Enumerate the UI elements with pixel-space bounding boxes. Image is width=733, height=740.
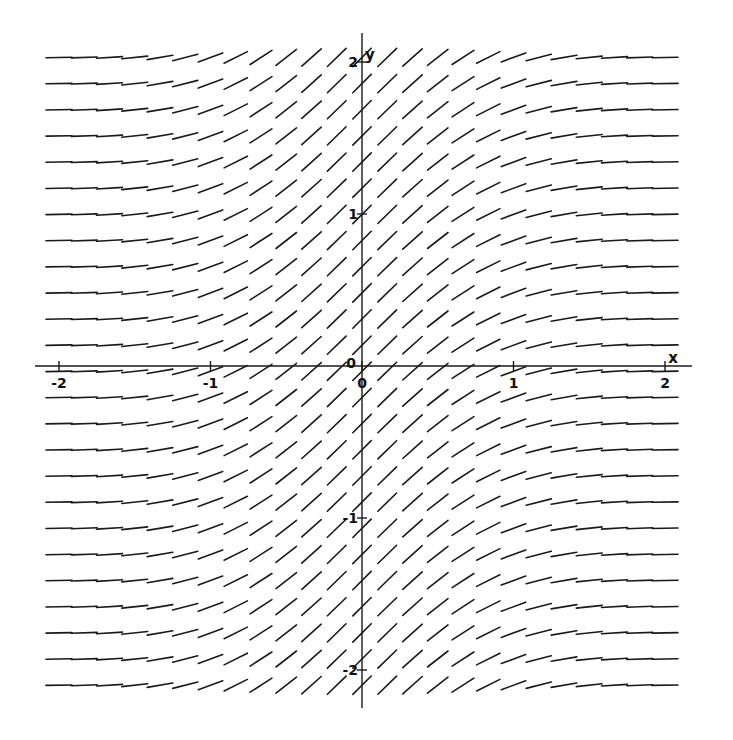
slope-segment xyxy=(173,656,198,663)
slope-segment xyxy=(173,237,198,244)
slope-segment xyxy=(276,102,297,118)
slope-segment xyxy=(224,392,247,404)
slope-segment xyxy=(224,575,247,587)
slope-segment xyxy=(501,655,525,664)
slope-segment xyxy=(302,258,321,275)
slope-segment xyxy=(198,105,222,114)
slope-segment xyxy=(551,160,577,164)
slope-segment xyxy=(501,105,525,114)
slope-segment xyxy=(173,264,198,270)
slope-segment xyxy=(551,55,577,59)
slope-segment xyxy=(147,212,173,216)
slope-segment xyxy=(198,681,222,690)
slope-segment xyxy=(452,286,474,300)
slope-segment xyxy=(276,311,297,327)
slope-segment xyxy=(477,549,500,561)
slope-segment xyxy=(198,262,222,271)
slope-segment xyxy=(198,131,222,140)
slope-segment xyxy=(173,342,198,349)
slope-segment xyxy=(403,650,422,667)
slope-segment xyxy=(302,520,321,537)
slope-segment xyxy=(71,580,97,581)
slope-segment xyxy=(97,580,123,582)
slope-segment xyxy=(250,338,272,352)
slope-segment xyxy=(652,162,678,163)
slope-segment xyxy=(652,214,678,215)
x-tick-label: -1 xyxy=(203,375,219,391)
slope-segment xyxy=(97,266,123,268)
slope-segment xyxy=(576,239,602,242)
slope-segment xyxy=(477,78,500,90)
slope-segment xyxy=(198,79,222,88)
slope-segment xyxy=(302,389,321,406)
slope-segment xyxy=(46,110,72,111)
slope-segment xyxy=(173,525,198,532)
slope-segment xyxy=(327,415,346,433)
slope-segment xyxy=(122,265,148,268)
slope-segment xyxy=(198,210,222,219)
slope-segment xyxy=(501,576,525,585)
slope-segment xyxy=(526,630,551,637)
slope-segment xyxy=(147,317,173,321)
slope-segment xyxy=(147,448,173,452)
slope-segment xyxy=(302,127,321,144)
slope-segment xyxy=(428,259,449,275)
slope-segment xyxy=(428,311,449,327)
slope-segment xyxy=(378,48,397,66)
slope-segment xyxy=(327,232,346,250)
slope-segment xyxy=(46,162,72,163)
slope-segment xyxy=(147,578,173,582)
slope-segment xyxy=(327,388,346,406)
slope-segment xyxy=(147,291,173,295)
slope-segment xyxy=(627,109,653,110)
slope-segment xyxy=(428,573,449,589)
slope-segment xyxy=(627,685,653,686)
slope-segment xyxy=(477,130,500,142)
slope-segment xyxy=(576,396,602,399)
slope-segment xyxy=(97,632,123,634)
slope-segment xyxy=(302,363,321,380)
slope-segment xyxy=(526,499,551,505)
slope-segment xyxy=(46,371,72,372)
slope-segment xyxy=(147,108,173,112)
slope-segment xyxy=(71,371,97,372)
slope-segment xyxy=(250,129,272,143)
slope-segment xyxy=(147,657,173,661)
slope-segment xyxy=(147,422,173,426)
slope-segment xyxy=(276,442,297,458)
slope-segment xyxy=(327,75,346,93)
slope-segment xyxy=(198,315,222,324)
slope-segment xyxy=(501,315,525,324)
slope-segment xyxy=(250,50,272,64)
slope-segment xyxy=(627,214,653,215)
slope-segment xyxy=(526,447,551,453)
slope-segment xyxy=(526,211,551,218)
slope-segment xyxy=(403,337,422,354)
slope-segment xyxy=(198,419,222,428)
slope-segment xyxy=(452,50,474,64)
slope-segment xyxy=(224,209,247,221)
slope-segment xyxy=(250,652,272,666)
slope-segment xyxy=(147,500,173,504)
slope-segment xyxy=(428,337,449,353)
slope-segment xyxy=(477,235,500,247)
slope-segment xyxy=(627,476,653,477)
slope-segment xyxy=(602,161,628,163)
slope-segment xyxy=(224,366,247,378)
slope-segment xyxy=(71,632,97,633)
slope-segment xyxy=(576,370,602,373)
slope-segment xyxy=(122,56,148,59)
slope-segment xyxy=(327,362,346,380)
slope-segment xyxy=(302,49,321,66)
slope-segment xyxy=(224,104,247,116)
slope-segment xyxy=(276,390,297,406)
slope-segment xyxy=(173,159,198,166)
slope-segment xyxy=(477,470,500,482)
slope-segment xyxy=(122,318,148,321)
slope-segment xyxy=(602,423,628,425)
slope-segment xyxy=(452,574,474,588)
slope-segment xyxy=(452,155,474,169)
slope-segment xyxy=(452,312,474,326)
slope-segment xyxy=(477,575,500,587)
slope-segment xyxy=(327,467,346,485)
